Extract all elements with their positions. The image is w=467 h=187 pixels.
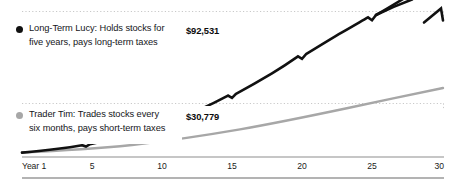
x-axis-tick-year-1: Year 1 [22,161,46,171]
legend-item-long-term-lucy: Long-Term Lucy: Holds stocks for five ye… [16,22,164,49]
legend-label-long-term-lucy: Long-Term Lucy: Holds stocks for five ye… [29,22,164,49]
value-label-trader-tim: $30,779 [186,111,219,122]
x-axis-tick-5: 5 [90,161,95,171]
x-axis-tick-10: 10 [157,161,166,171]
x-axis-tick-30: 30 [435,161,444,171]
x-axis-tick-25: 25 [367,161,376,171]
legend-label-trader-tim: Trader Tim: Trades stocks every six mont… [29,108,165,135]
legend-bullet-black-icon [16,26,23,33]
series-endpoint-long-term-lucy [424,9,443,23]
x-axis-tick-20: 20 [297,161,306,171]
chart-figure: Long-Term Lucy: Holds stocks for five ye… [0,0,467,187]
x-axis-tick-15: 15 [227,161,236,171]
legend-item-trader-tim: Trader Tim: Trades stocks every six mont… [16,108,165,135]
value-label-long-term-lucy: $92,531 [186,25,219,36]
legend-bullet-gray-icon [16,112,23,119]
